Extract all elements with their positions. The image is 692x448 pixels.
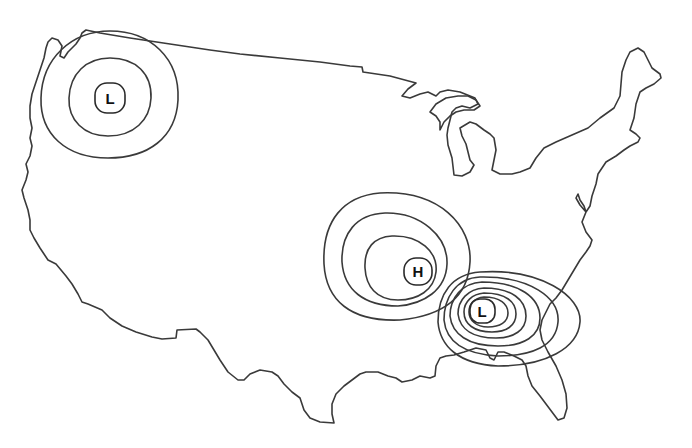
weather-map: L H L xyxy=(0,0,692,448)
isobar xyxy=(444,277,558,356)
isobar xyxy=(342,213,447,306)
low-pressure-label: L xyxy=(477,303,486,320)
high-pressure-label: H xyxy=(413,263,424,280)
isobar xyxy=(324,193,470,320)
high-pressure-system-central: H xyxy=(324,193,470,320)
low-pressure-system-southeast: L xyxy=(438,272,580,366)
low-pressure-label: L xyxy=(105,90,114,107)
low-pressure-system-northwest: L xyxy=(41,31,178,158)
great-lakes-outline xyxy=(430,96,480,130)
